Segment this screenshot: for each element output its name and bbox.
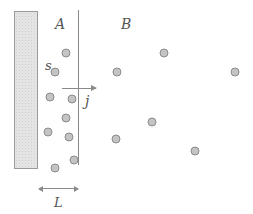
particle-region-b xyxy=(148,118,157,127)
particle-region-a xyxy=(62,49,71,58)
region-a-label: A xyxy=(55,16,65,32)
flux-label: j xyxy=(85,93,89,109)
length-dimension-arrow-icon xyxy=(39,188,78,189)
particle-region-a xyxy=(51,164,60,173)
flux-arrow-icon xyxy=(62,88,96,89)
particle-region-a xyxy=(44,128,53,137)
particle-region-a xyxy=(65,133,74,142)
particle-region-a xyxy=(68,95,77,104)
particle-region-b xyxy=(112,135,121,144)
wall-surface xyxy=(14,11,38,169)
particle-region-a xyxy=(46,93,55,102)
particle-region-a xyxy=(51,68,60,77)
particle-region-b xyxy=(113,68,122,77)
particle-region-b xyxy=(231,68,240,77)
particle-region-a xyxy=(62,114,71,123)
region-b-label: B xyxy=(121,16,131,32)
particle-region-b xyxy=(191,147,200,156)
length-label: L xyxy=(54,195,63,210)
particle-region-b xyxy=(160,49,169,58)
particle-region-a xyxy=(70,156,79,165)
